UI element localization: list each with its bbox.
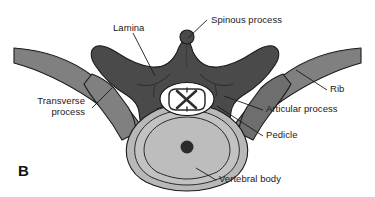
label-rib: Rib (330, 83, 344, 94)
leader-line-spinous-process (188, 20, 207, 38)
label-pedicle: Pedicle (266, 129, 298, 140)
label-lamina: Lamina (113, 22, 144, 33)
label-articular-process: Articular process (266, 103, 338, 114)
label-spinous-process: Spinous process (211, 14, 282, 25)
label-transverse-process: Transverse process (15, 95, 85, 117)
vertebral-body-center-dot (181, 141, 194, 154)
vertebra-cross-section-figure: Lamina Spinous process Rib Articular pro… (0, 0, 375, 197)
spinous-process-tip (180, 30, 194, 44)
panel-letter-label: B (18, 162, 29, 179)
label-vertebral-body: Vertebral body (219, 173, 281, 184)
